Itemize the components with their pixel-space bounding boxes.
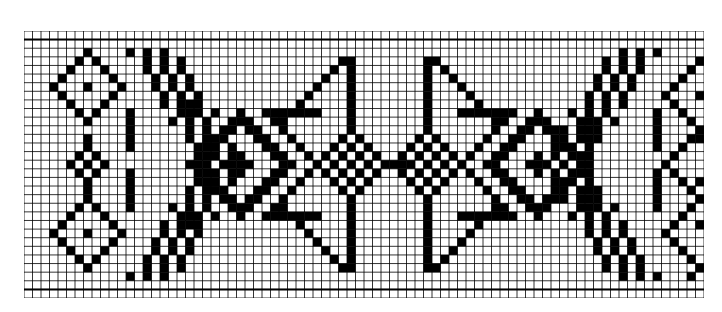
pattern-chart [24, 31, 704, 298]
pattern-grid [24, 31, 704, 298]
